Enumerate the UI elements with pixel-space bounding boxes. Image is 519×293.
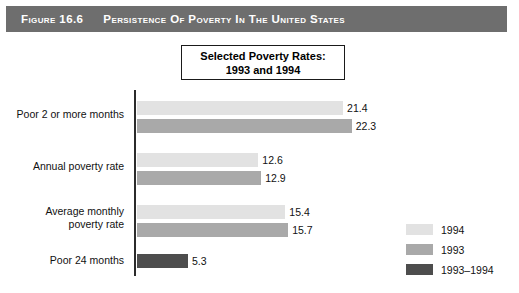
bar-value-label: 22.3 — [352, 120, 376, 132]
legend-swatch — [406, 244, 433, 255]
category-label-line: Average monthly — [0, 205, 124, 218]
bar-value-label: 15.4 — [285, 206, 309, 218]
bar-1994 — [137, 205, 285, 219]
legend-item: 1993 — [406, 241, 494, 258]
category-label: Average monthlypoverty rate — [0, 205, 124, 231]
bar-row: 22.3 — [137, 119, 352, 133]
legend-swatch — [406, 224, 433, 235]
bar-value-label: 12.6 — [258, 154, 282, 166]
bar-1994 — [137, 101, 343, 115]
figure-title: Persistence of Poverty in the United Sta… — [103, 13, 345, 25]
bar-row: 21.4 — [137, 101, 343, 115]
figure-banner: Figure 16.6 Persistence of Poverty in th… — [6, 6, 507, 32]
bar-value-label: 5.3 — [188, 255, 207, 267]
bar-1993 — [137, 119, 352, 133]
category-label: Annual poverty rate — [0, 160, 124, 173]
bar-1993 — [137, 223, 288, 237]
bar-row: 15.4 — [137, 205, 285, 219]
legend-swatch — [406, 264, 433, 275]
category-axis-line — [134, 90, 136, 276]
category-label-line: Poor 24 months — [0, 254, 124, 267]
bar-value-label: 15.7 — [288, 224, 312, 236]
bar-row: 12.9 — [137, 171, 261, 185]
bar-value-label: 21.4 — [343, 102, 367, 114]
chart-title-line-1: Selected Poverty Rates: — [200, 49, 325, 63]
category-label: Poor 24 months — [0, 254, 124, 267]
legend-label: 1993 — [441, 244, 464, 256]
category-label: Poor 2 or more months — [0, 108, 124, 121]
chart-title-box: Selected Poverty Rates: 1993 and 1994 — [181, 45, 345, 80]
bar-row: 15.7 — [137, 223, 288, 237]
legend-label: 1994 — [441, 224, 464, 236]
chart-legend: 199419931993–1994 — [406, 221, 494, 281]
category-label-line: poverty rate — [0, 218, 124, 231]
category-label-line: Annual poverty rate — [0, 160, 124, 173]
legend-label: 1993–1994 — [441, 264, 494, 276]
bar-value-label: 12.9 — [261, 172, 285, 184]
bar-1994 — [137, 153, 258, 167]
chart-title-line-2: 1993 and 1994 — [226, 63, 301, 77]
bar-1993-1994 — [137, 254, 188, 268]
figure-number: Figure 16.6 — [21, 13, 83, 25]
legend-item: 1994 — [406, 221, 494, 238]
bar-row: 5.3 — [137, 254, 188, 268]
category-label-line: Poor 2 or more months — [0, 108, 124, 121]
legend-item: 1993–1994 — [406, 261, 494, 278]
bar-row: 12.6 — [137, 153, 258, 167]
bar-1993 — [137, 171, 261, 185]
